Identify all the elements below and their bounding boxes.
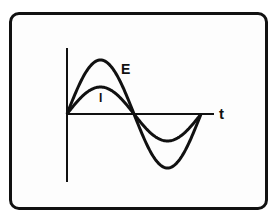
current-label: I bbox=[99, 92, 102, 104]
waveform-plot bbox=[0, 0, 276, 223]
voltage-label: E bbox=[121, 62, 130, 76]
time-axis-label: t bbox=[219, 106, 224, 121]
